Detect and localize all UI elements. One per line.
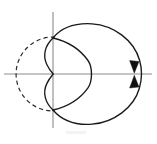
scan-artifact [66,131,86,134]
axes-group [4,12,152,128]
direction-arrow-upper-icon [130,61,139,74]
limacon-diagram [0,0,157,144]
figure-container [0,0,157,144]
direction-arrow-lower-icon [130,75,139,88]
